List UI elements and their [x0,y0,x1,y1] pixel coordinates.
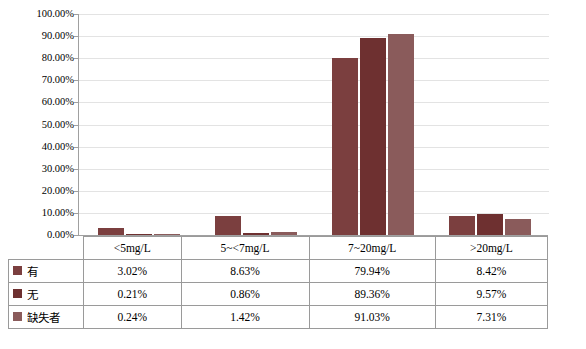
chart-container: 0.00%10.00%20.00%30.00%40.00%50.00%60.00… [0,0,586,349]
category-header-cell: <5mg/L [84,237,182,260]
table-corner-cell [9,237,84,260]
bar-group [432,14,549,235]
y-axis-tick-mark [74,58,78,59]
y-axis-tick-mark [74,102,78,103]
legend-swatch-icon [13,289,22,298]
data-cell: 7.31% [435,306,547,329]
data-table: <5mg/L5~<7mg/L7~20mg/L>20mg/L有3.02%8.63%… [8,236,548,329]
bar [126,234,152,235]
category-header-cell: >20mg/L [435,237,547,260]
bar-set [197,14,314,235]
y-axis-tick-mark [74,191,78,192]
y-axis-tick-label: 70.00% [4,75,74,85]
table-row: 有3.02%8.63%79.94%8.42% [9,260,548,283]
legend-swatch-icon [13,312,22,321]
data-cell: 1.42% [181,306,309,329]
data-cell: 8.42% [435,260,547,283]
y-axis-tick-label: 90.00% [4,31,74,41]
bar [332,58,358,235]
bar [477,214,503,235]
y-axis-tick-label: 100.00% [4,9,74,19]
plot-wrapper [78,14,548,236]
bar [98,228,124,235]
table-header-row: <5mg/L5~<7mg/L7~20mg/L>20mg/L [9,237,548,260]
data-cell: 9.57% [435,283,547,306]
data-cell: 8.63% [181,260,309,283]
legend-cell: 缺失者 [9,306,84,329]
data-cell: 89.36% [309,283,435,306]
bar [388,34,414,235]
bar-set [80,14,197,235]
bar [271,232,297,235]
bar [215,216,241,235]
bar [360,38,386,235]
data-cell: 91.03% [309,306,435,329]
bar-group [315,14,432,235]
y-axis-tick-label: 50.00% [4,120,74,130]
y-axis-tick-mark [74,36,78,37]
bar-group [197,14,314,235]
y-axis-tick-label: 10.00% [4,208,74,218]
y-axis-tick-mark [74,213,78,214]
y-axis-tick-label: 40.00% [4,142,74,152]
y-axis-tick-label: 60.00% [4,97,74,107]
legend-swatch-icon [13,266,22,275]
y-axis-tick-label: 80.00% [4,53,74,63]
table-row: 无0.21%0.86%89.36%9.57% [9,283,548,306]
y-axis-tick-label: 20.00% [4,186,74,196]
y-axis-tick-mark [74,125,78,126]
legend-cell: 无 [9,283,84,306]
data-cell: 79.94% [309,260,435,283]
y-axis-tick-label: 30.00% [4,164,74,174]
y-axis-tick-mark [74,80,78,81]
y-axis-tick-mark [74,147,78,148]
bar-groups [80,14,549,235]
data-cell: 0.86% [181,283,309,306]
bar-group [80,14,197,235]
data-cell: 0.24% [84,306,182,329]
legend-label: 无 [27,286,38,302]
data-cell: 0.21% [84,283,182,306]
bar-set [432,14,549,235]
legend-label: 有 [27,263,38,279]
bar-set [315,14,432,235]
legend-label: 缺失者 [27,309,60,325]
bar [449,216,475,235]
legend-cell: 有 [9,260,84,283]
table-row: 缺失者0.24%1.42%91.03%7.31% [9,306,548,329]
plot-area [78,14,548,236]
category-header-cell: 7~20mg/L [309,237,435,260]
data-cell: 3.02% [84,260,182,283]
y-axis-tick-mark [74,169,78,170]
bar [154,234,180,235]
category-header-cell: 5~<7mg/L [181,237,309,260]
bar [505,219,531,235]
bar [243,233,269,235]
y-axis-tick-mark [74,14,78,15]
